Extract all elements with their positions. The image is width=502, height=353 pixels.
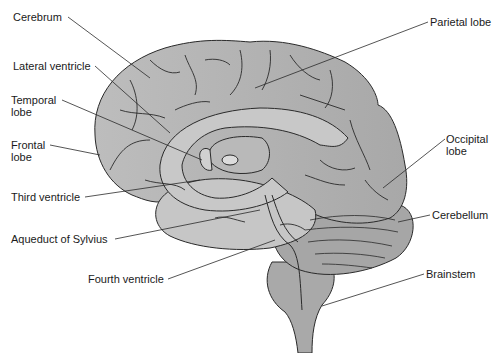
brainstem-shape (267, 262, 334, 353)
brain-illustration (0, 0, 502, 353)
label-frontal-lobe: Frontal lobe (11, 139, 45, 163)
thalamus-shape (208, 137, 269, 174)
label-cerebrum: Cerebrum (13, 11, 62, 23)
brain-diagram: Cerebrum Lateral ventricle Temporal lobe… (0, 0, 502, 353)
interthalamic-adhesion (222, 155, 238, 165)
label-aqueduct-of-sylvius: Aqueduct of Sylvius (11, 233, 108, 245)
label-cerebellum: Cerebellum (432, 209, 488, 221)
label-brainstem: Brainstem (426, 268, 476, 280)
label-parietal-lobe: Parietal lobe (430, 16, 491, 28)
label-temporal-lobe: Temporal lobe (11, 94, 56, 118)
label-lateral-ventricle: Lateral ventricle (13, 60, 91, 72)
label-fourth-ventricle: Fourth ventricle (88, 273, 164, 285)
label-third-ventricle: Third ventricle (11, 191, 80, 203)
label-occipital-lobe: Occipital lobe (446, 133, 488, 157)
